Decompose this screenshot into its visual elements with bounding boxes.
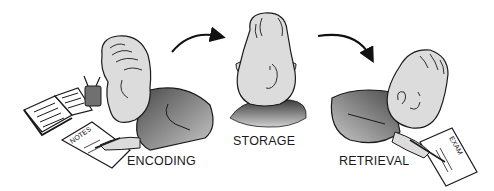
curved-arrow-down-right-icon	[318, 35, 370, 56]
pencil-cup-icon	[84, 76, 101, 106]
retrieval-head	[387, 50, 448, 128]
encoding-scene: NOTES	[24, 36, 213, 168]
encoding-label: ENCODING	[127, 154, 196, 168]
exam-paper: EXAM	[420, 128, 477, 186]
retrieval-label: RETRIEVAL	[339, 154, 409, 168]
encoding-head	[102, 36, 151, 123]
memory-process-diagram: NOTES	[0, 0, 494, 191]
storage-label: STORAGE	[233, 134, 295, 148]
storage-head	[237, 13, 295, 106]
storage-scene	[230, 13, 306, 127]
curved-arrow-right-icon	[172, 35, 218, 52]
